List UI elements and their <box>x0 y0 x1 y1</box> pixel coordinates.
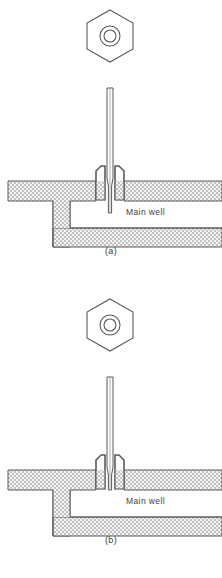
well-label-a: Main well <box>126 207 165 217</box>
figure-root: Main well (a) <box>0 0 222 578</box>
ferrule-right-a <box>115 166 124 201</box>
nut-inner-ring-a <box>104 30 116 42</box>
hex-nut-b <box>87 299 133 351</box>
needle-b <box>107 377 113 490</box>
panel-caption-a: (a) <box>0 246 222 256</box>
ferrule-right-b <box>115 455 124 490</box>
panel-a: Main well (a) <box>0 0 222 289</box>
hex-nut-a <box>87 10 133 62</box>
ferrule-left-a <box>96 166 105 201</box>
panel-b: Main well (b) <box>0 289 222 578</box>
needle-a <box>107 88 113 213</box>
well-label-b: Main well <box>126 496 165 506</box>
nut-inner-ring-b <box>104 319 116 331</box>
panel-caption-b: (b) <box>0 535 222 545</box>
ferrule-left-b <box>96 455 105 490</box>
